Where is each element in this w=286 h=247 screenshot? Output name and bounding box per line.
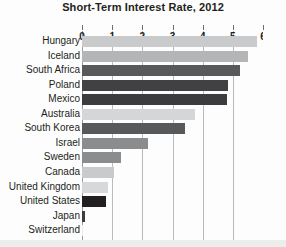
category-label: South Africa (26, 64, 80, 76)
category-label: Japan (53, 210, 80, 222)
bar-row: South Africa (0, 64, 286, 79)
bar-row: Australia (0, 108, 286, 123)
bar (82, 211, 85, 222)
bar-row: Mexico (0, 93, 286, 108)
category-label: South Korea (24, 122, 80, 134)
category-label: Poland (49, 79, 80, 91)
category-label: Mexico (48, 93, 80, 105)
bar (82, 109, 195, 120)
bar (82, 225, 83, 236)
x-tick-mark (82, 25, 83, 30)
bar-row: South Korea (0, 122, 286, 137)
bar (82, 167, 114, 178)
bar-row: Poland (0, 79, 286, 94)
x-tick-mark (263, 25, 264, 30)
bar (82, 36, 257, 47)
category-label: United States (20, 195, 80, 207)
chart-title: Short-Term Interest Rate, 2012 (0, 1, 286, 13)
bar-row: Iceland (0, 50, 286, 65)
bar (82, 123, 185, 134)
category-label: Sweden (44, 151, 80, 163)
x-tick-mark (112, 25, 113, 30)
category-label: Hungary (42, 35, 80, 47)
category-label: Australia (41, 108, 80, 120)
category-label: Iceland (48, 50, 80, 62)
bar-row: Israel (0, 137, 286, 152)
bar (82, 80, 228, 91)
bar-chart: Short-Term Interest Rate, 2012 0123456 H… (0, 0, 286, 247)
bar-row: Switzerland (0, 224, 286, 239)
bar (82, 51, 248, 62)
plot-right-margin (263, 31, 286, 240)
bar (82, 138, 148, 149)
category-label: United Kingdom (9, 181, 80, 193)
x-tick-mark (173, 25, 174, 30)
bar (82, 94, 227, 105)
bar-row: Sweden (0, 151, 286, 166)
category-label: Canada (45, 166, 80, 178)
bar-row: Japan (0, 210, 286, 225)
bar-row: Canada (0, 166, 286, 181)
x-tick-mark (142, 25, 143, 30)
category-label: Switzerland (28, 224, 80, 236)
bar-row: Hungary (0, 35, 286, 50)
bar (82, 152, 121, 163)
category-label: Israel (56, 137, 80, 149)
x-tick-mark (203, 25, 204, 30)
bar-rows: HungaryIcelandSouth AfricaPolandMexicoAu… (0, 35, 286, 240)
x-tick-mark (233, 25, 234, 30)
footer-band (0, 240, 286, 247)
bar (82, 196, 106, 207)
bar-row: United States (0, 195, 286, 210)
x-axis-ticks: 0123456 (82, 14, 263, 30)
bar-row: United Kingdom (0, 181, 286, 196)
bar (82, 182, 108, 193)
bar (82, 65, 240, 76)
